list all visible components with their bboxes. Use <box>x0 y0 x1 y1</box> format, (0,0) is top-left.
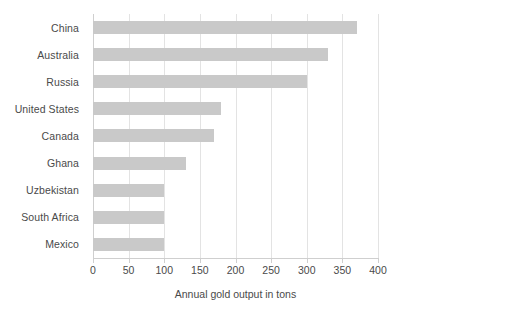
bar-row <box>93 204 378 231</box>
x-axis-title: Annual gold output in tons <box>93 288 378 300</box>
gridline <box>378 14 379 258</box>
bar-row <box>93 41 378 68</box>
bar-chart: ChinaAustraliaRussiaUnited StatesCanadaG… <box>0 0 510 315</box>
bar-row <box>93 95 378 122</box>
plot-area <box>93 14 378 258</box>
bar <box>93 129 214 142</box>
x-axis-tick <box>93 258 94 263</box>
bar-row <box>93 14 378 41</box>
bar <box>93 157 186 170</box>
x-axis-tick-label: 150 <box>191 264 209 276</box>
bar <box>93 211 164 224</box>
bar <box>93 75 307 88</box>
bar-row <box>93 68 378 95</box>
x-axis-tick <box>129 258 130 263</box>
bar-row <box>93 177 378 204</box>
bar <box>93 48 328 61</box>
x-axis-tick-label: 50 <box>123 264 135 276</box>
category-label: Ghana <box>0 150 86 177</box>
x-axis-tick-label: 400 <box>369 264 387 276</box>
category-axis: ChinaAustraliaRussiaUnited StatesCanadaG… <box>0 14 86 258</box>
category-label: Mexico <box>0 231 86 258</box>
category-label: China <box>0 14 86 41</box>
category-label: South Africa <box>0 204 86 231</box>
x-axis-tick <box>200 258 201 263</box>
bar <box>93 102 221 115</box>
category-label: Uzbekistan <box>0 177 86 204</box>
category-label: Canada <box>0 122 86 149</box>
bar-row <box>93 231 378 258</box>
x-axis-tick <box>378 258 379 263</box>
x-axis-tick <box>307 258 308 263</box>
x-axis-tick-label: 350 <box>334 264 352 276</box>
bar-row <box>93 122 378 149</box>
bar <box>93 238 164 251</box>
x-axis-tick <box>236 258 237 263</box>
x-axis-tick-label: 100 <box>155 264 173 276</box>
x-axis-tick-label: 250 <box>262 264 280 276</box>
x-axis-tick-labels: 050100150200250300350400 <box>93 264 378 280</box>
x-axis-tick <box>164 258 165 263</box>
bar <box>93 21 357 34</box>
bar-row <box>93 150 378 177</box>
x-axis-tick <box>271 258 272 263</box>
bars-group <box>93 14 378 258</box>
bar <box>93 184 164 197</box>
category-label: United States <box>0 95 86 122</box>
category-label: Russia <box>0 68 86 95</box>
category-label: Australia <box>0 41 86 68</box>
x-axis-tick-label: 300 <box>298 264 316 276</box>
x-axis-tick <box>342 258 343 263</box>
x-axis-tick-label: 200 <box>227 264 245 276</box>
x-axis-ticks <box>93 258 378 263</box>
x-axis-tick-label: 0 <box>90 264 96 276</box>
